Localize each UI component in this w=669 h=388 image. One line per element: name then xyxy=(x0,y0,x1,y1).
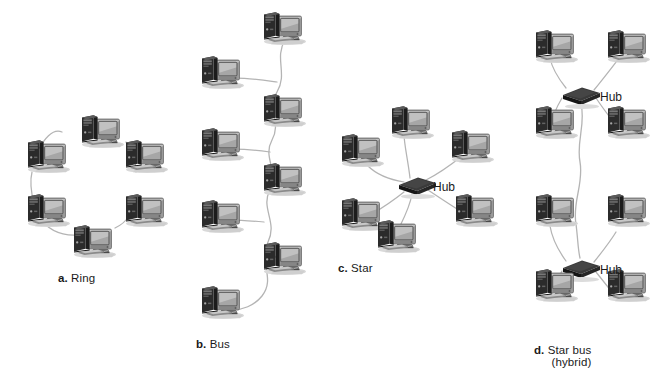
hub-label-starbus-bottom: Hub xyxy=(600,263,622,277)
caption-name: Star xyxy=(351,262,373,274)
computer-node[interactable] xyxy=(74,225,116,258)
computer-node[interactable] xyxy=(264,163,306,196)
computer-node[interactable] xyxy=(202,56,244,89)
computer-node[interactable] xyxy=(536,269,578,302)
caption-letter: a. xyxy=(58,272,68,284)
network-topology-figure xyxy=(0,0,669,388)
computer-node[interactable] xyxy=(456,194,498,227)
computer-node[interactable] xyxy=(536,106,578,139)
hub-label-starbus-top: Hub xyxy=(600,90,622,104)
caption-name: Bus xyxy=(210,338,230,350)
computer-node[interactable] xyxy=(342,134,384,167)
computer-node[interactable] xyxy=(82,115,124,148)
computer-node[interactable] xyxy=(392,106,434,139)
computer-node[interactable] xyxy=(608,106,650,139)
computer-node[interactable] xyxy=(608,30,650,63)
computer-node[interactable] xyxy=(342,198,384,231)
computer-node[interactable] xyxy=(608,194,650,227)
computer-node[interactable] xyxy=(202,128,244,161)
computer-node[interactable] xyxy=(264,12,306,45)
computer-node[interactable] xyxy=(452,130,494,163)
caption-name: Ring xyxy=(71,272,95,284)
computer-node[interactable] xyxy=(536,194,578,227)
computer-node[interactable] xyxy=(28,140,70,173)
caption-letter: d. xyxy=(534,344,544,356)
computer-node[interactable] xyxy=(202,200,244,233)
caption-star-bus: d. Star bus (hybrid) xyxy=(534,344,591,368)
computer-node[interactable] xyxy=(28,194,70,227)
computer-node[interactable] xyxy=(536,30,578,63)
caption-name: Star bus xyxy=(548,344,592,356)
caption-bus: b. Bus xyxy=(196,338,230,350)
hub-label-star: Hub xyxy=(433,180,455,194)
caption-letter: b. xyxy=(196,338,206,350)
caption-ring: a. Ring xyxy=(58,272,95,284)
caption-subtitle: (hybrid) xyxy=(534,356,591,368)
computer-node[interactable] xyxy=(202,286,244,319)
computer-node[interactable] xyxy=(126,140,168,173)
caption-star: c. Star xyxy=(338,262,373,274)
caption-letter: c. xyxy=(338,262,348,274)
computer-node[interactable] xyxy=(264,242,306,275)
computer-node[interactable] xyxy=(378,220,420,253)
topology-canvas xyxy=(0,0,669,388)
computer-node[interactable] xyxy=(126,194,168,227)
computer-node[interactable] xyxy=(264,94,306,127)
